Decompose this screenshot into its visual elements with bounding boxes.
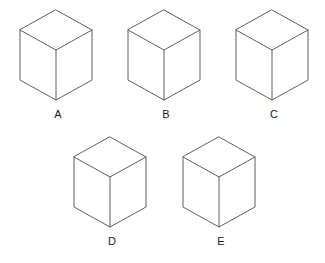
cube-option-c[interactable] bbox=[236, 10, 308, 100]
cube-option-b[interactable] bbox=[128, 10, 200, 100]
cube-label-c: C bbox=[270, 108, 278, 120]
cube-label-a: A bbox=[54, 108, 62, 120]
cube-puzzle-canvas: ABCDE bbox=[0, 0, 325, 263]
cube-option-e[interactable] bbox=[183, 137, 255, 227]
cube-label-b: B bbox=[162, 108, 169, 120]
cube-option-d[interactable] bbox=[74, 137, 146, 227]
cube-puzzle-figure: ABCDE bbox=[0, 0, 325, 263]
cube-option-a[interactable] bbox=[20, 10, 92, 100]
cube-label-d: D bbox=[108, 235, 116, 247]
cube-label-e: E bbox=[217, 235, 224, 247]
